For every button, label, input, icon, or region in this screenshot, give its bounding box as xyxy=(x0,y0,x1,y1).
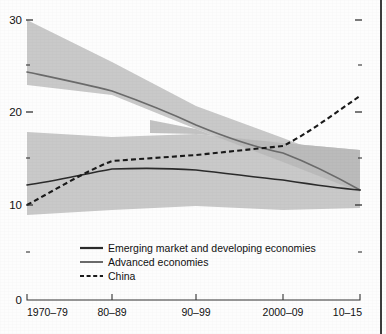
chart-canvas: 30 20 10 0 1970–79 80–89 90–99 2000–09 1… xyxy=(0,0,386,334)
x-tick-label-2000-09: 2000–09 xyxy=(263,306,304,318)
y-tick-label-10: 10 xyxy=(9,199,22,211)
chart-figure: 30 20 10 0 1970–79 80–89 90–99 2000–09 1… xyxy=(0,0,386,334)
band-emerging-market-economies xyxy=(27,132,360,215)
band-group xyxy=(27,20,360,215)
page-edge-bar xyxy=(380,0,382,334)
chart-legend: Emerging market and developing economies… xyxy=(80,242,316,282)
y-tick-label-20: 20 xyxy=(9,106,22,118)
legend-item-advanced-economies[interactable]: Advanced economies xyxy=(80,256,208,268)
x-tick-label-80-89: 80–89 xyxy=(97,306,126,318)
legend-label-china: China xyxy=(108,270,136,282)
y-axis-tick-labels: 30 20 10 0 xyxy=(9,14,22,306)
x-tick-label-1970-79: 1970–79 xyxy=(27,306,68,318)
y-tick-label-30: 30 xyxy=(9,14,22,26)
x-axis-line xyxy=(27,294,360,300)
legend-label-advanced-economies: Advanced economies xyxy=(108,256,208,268)
legend-label-emerging-market-economies: Emerging market and developing economies xyxy=(108,242,316,254)
x-tick-label-10-15: 10–15 xyxy=(333,306,362,318)
legend-item-china[interactable]: China xyxy=(80,270,136,282)
legend-item-emerging-market-economies[interactable]: Emerging market and developing economies xyxy=(80,242,316,254)
x-tick-label-90-99: 90–99 xyxy=(181,306,210,318)
x-axis-tick-labels: 1970–79 80–89 90–99 2000–09 10–15 xyxy=(27,306,362,318)
y-tick-label-0: 0 xyxy=(16,294,22,306)
